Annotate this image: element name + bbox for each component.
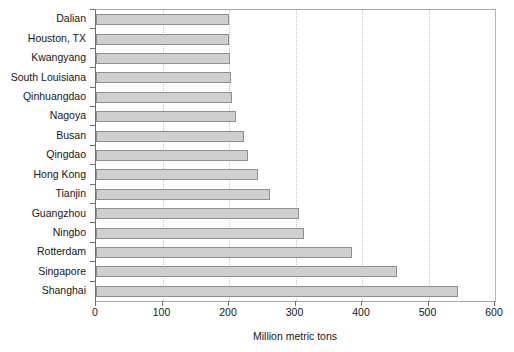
bar bbox=[96, 111, 236, 122]
bar-row bbox=[96, 49, 495, 68]
category-label: Rotterdam bbox=[0, 242, 91, 261]
bar-row bbox=[96, 29, 495, 48]
category-axis-labels: DalianHouston, TXKwangyangSouth Louisian… bbox=[0, 9, 91, 300]
bar-row bbox=[96, 68, 495, 87]
bar bbox=[96, 14, 229, 25]
category-label: Ningbo bbox=[0, 222, 91, 241]
x-axis-tick-label: 400 bbox=[352, 307, 370, 318]
category-label: Kwangyang bbox=[0, 48, 91, 67]
x-axis-tick-label: 0 bbox=[92, 307, 98, 318]
bar-row bbox=[96, 282, 495, 301]
bar-row bbox=[96, 204, 495, 223]
category-label: Tianjin bbox=[0, 184, 91, 203]
category-label: Qinhuangdao bbox=[0, 87, 91, 106]
bar bbox=[96, 131, 244, 142]
bar-row bbox=[96, 146, 495, 165]
bar bbox=[96, 150, 248, 161]
x-axis-tick-label: 600 bbox=[485, 307, 503, 318]
bar bbox=[96, 286, 458, 297]
category-label: Houston, TX bbox=[0, 28, 91, 47]
category-label: Shanghai bbox=[0, 281, 91, 300]
category-label: Qingdao bbox=[0, 145, 91, 164]
bar bbox=[96, 228, 304, 239]
bar-row bbox=[96, 126, 495, 145]
bar-series bbox=[96, 10, 495, 301]
bar-row bbox=[96, 243, 495, 262]
bar-row bbox=[96, 165, 495, 184]
bar bbox=[96, 208, 299, 219]
plot-area bbox=[95, 9, 496, 302]
bar-row bbox=[96, 107, 495, 126]
bar bbox=[96, 266, 397, 277]
gridline bbox=[495, 10, 496, 301]
horizontal-bar-chart: DalianHouston, TXKwangyangSouth Louisian… bbox=[0, 0, 514, 352]
bar bbox=[96, 92, 232, 103]
bar-row bbox=[96, 223, 495, 242]
bar bbox=[96, 189, 270, 200]
category-label: Singapore bbox=[0, 261, 91, 280]
category-label: South Louisiana bbox=[0, 67, 91, 86]
category-label: Guangzhou bbox=[0, 203, 91, 222]
bar bbox=[96, 169, 258, 180]
category-label: Dalian bbox=[0, 9, 91, 28]
category-label: Hong Kong bbox=[0, 164, 91, 183]
bar-row bbox=[96, 185, 495, 204]
bar bbox=[96, 53, 230, 64]
x-axis-title: Million metric tons bbox=[95, 331, 495, 342]
x-axis-tick-label: 100 bbox=[153, 307, 171, 318]
bar-row bbox=[96, 10, 495, 29]
category-label: Nagoya bbox=[0, 106, 91, 125]
category-label: Busan bbox=[0, 125, 91, 144]
bar bbox=[96, 247, 352, 258]
bar-row bbox=[96, 262, 495, 281]
bar-row bbox=[96, 88, 495, 107]
x-axis-tick-label: 500 bbox=[419, 307, 437, 318]
x-axis-tick-label: 300 bbox=[286, 307, 304, 318]
bar bbox=[96, 72, 231, 83]
bar bbox=[96, 34, 229, 45]
x-axis-tick-label: 200 bbox=[219, 307, 237, 318]
